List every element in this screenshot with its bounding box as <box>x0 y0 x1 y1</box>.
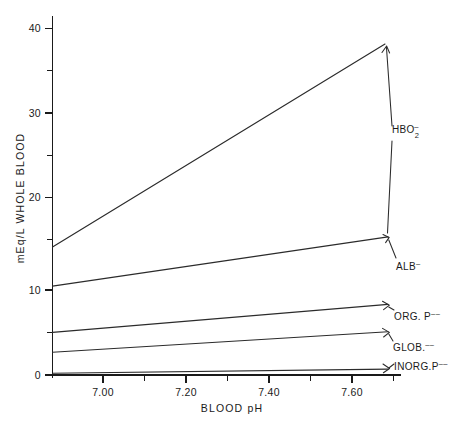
series-label-orgp: ORG. P–– <box>394 309 441 323</box>
y-axis: 40 30 20 10 0 mEq/L WHOLE BLOOD <box>14 16 53 381</box>
leader-alb <box>389 240 396 258</box>
arrow-glob <box>383 328 390 337</box>
leader-hbo2-lower <box>388 141 393 233</box>
x-tick-label-720: 7.20 <box>175 386 197 398</box>
annotation-leaders <box>382 46 396 373</box>
arrow-orgp <box>383 301 390 309</box>
x-tick-label-700: 7.00 <box>92 386 114 398</box>
y-axis-title: mEq/L WHOLE BLOOD <box>14 133 26 264</box>
series-label-glob: GLOB.–– <box>393 340 435 354</box>
series-label-inorgp: INORG.P–– <box>394 359 448 373</box>
x-tick-label-740: 7.40 <box>258 386 280 398</box>
leader-orgp <box>389 307 394 310</box>
series-line-hbo2 <box>53 44 386 247</box>
x-tick-label-760: 7.60 <box>341 386 363 398</box>
leader-hbo2-upper <box>387 48 393 126</box>
y-tick-label-10: 10 <box>29 284 41 296</box>
series-line-glob <box>53 332 389 352</box>
series-label-hbo2: HBO2– <box>392 122 419 140</box>
y-tick-label-0: 0 <box>35 369 41 381</box>
series-line-orgp <box>53 304 389 332</box>
series-label-alb: ALB– <box>396 259 421 273</box>
y-tick-label-20: 20 <box>29 191 41 203</box>
chart-figure: 40 30 20 10 0 mEq/L WHOLE BLOOD 7.00 7.2… <box>0 0 458 423</box>
series-group <box>53 44 389 373</box>
arrow-hbo2 <box>382 46 390 53</box>
y-tick-label-30: 30 <box>29 107 41 119</box>
series-labels: HBO2– ALB– ORG. P–– GLOB.–– INORG.P–– <box>392 122 448 373</box>
x-axis-title: BLOOD pH <box>201 402 263 414</box>
series-line-alb <box>53 237 389 286</box>
leader-glob <box>389 334 393 341</box>
x-axis: 7.00 7.20 7.40 7.60 BLOOD pH <box>53 375 402 414</box>
y-tick-label-40: 40 <box>29 22 41 34</box>
arrow-inorgp <box>383 364 390 373</box>
arrow-alb <box>383 235 389 243</box>
chart-plot-area: 40 30 20 10 0 mEq/L WHOLE BLOOD 7.00 7.2… <box>0 0 458 423</box>
series-line-inorgp <box>53 369 389 373</box>
